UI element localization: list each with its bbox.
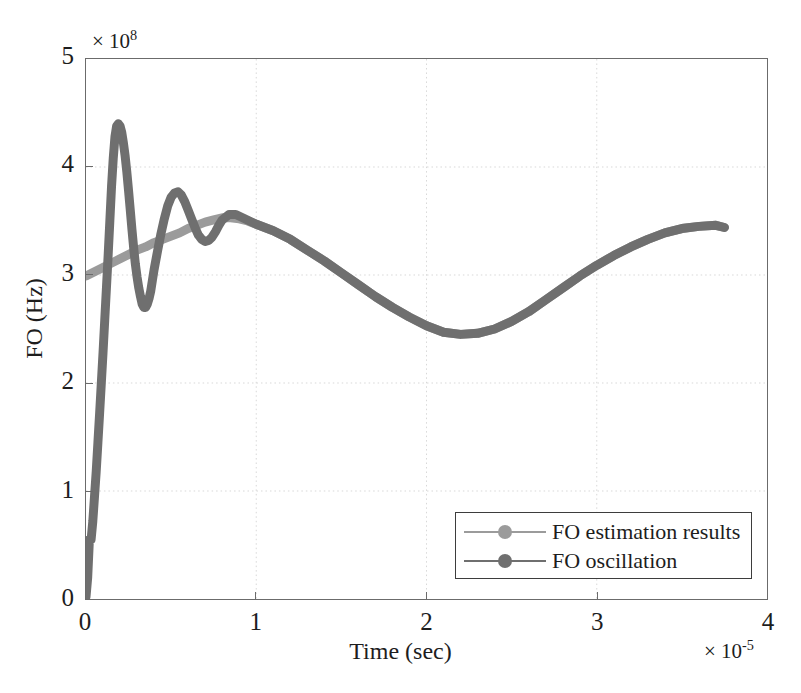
x-axis-exponent: × 10-5	[704, 639, 754, 664]
y-axis-exponent-power: 8	[130, 27, 137, 43]
x-tick-label: 2	[402, 608, 452, 636]
chart-figure: × 108 01234501234 FO (Hz) Time (sec) × 1…	[0, 0, 801, 693]
x-tick-label: 1	[231, 608, 281, 636]
x-tick-label: 4	[743, 608, 793, 636]
y-tick-label: 1	[42, 476, 74, 504]
y-tick-label: 4	[42, 150, 74, 178]
legend-swatch-estimation	[464, 522, 546, 542]
legend-label-oscillation: FO oscillation	[546, 548, 677, 574]
legend-label-estimation: FO estimation results	[546, 519, 740, 545]
y-tick-label: 5	[42, 42, 74, 70]
y-axis-exponent-base: × 10	[92, 29, 130, 53]
legend-swatch-oscillation	[464, 551, 546, 571]
legend: FO estimation results FO oscillation	[455, 512, 752, 579]
legend-marker-oscillation	[498, 554, 512, 568]
legend-item-oscillation: FO oscillation	[456, 546, 751, 575]
y-tick-label: 0	[42, 584, 74, 612]
x-axis-exponent-power: -5	[742, 637, 754, 653]
y-axis-exponent: × 108	[92, 29, 137, 54]
legend-item-estimation: FO estimation results	[456, 517, 751, 546]
y-axis-title: FO (Hz)	[21, 249, 48, 389]
legend-marker-estimation	[498, 525, 512, 539]
x-tick-label: 3	[572, 608, 622, 636]
x-axis-exponent-base: × 10	[704, 639, 742, 663]
x-tick-label: 0	[60, 608, 110, 636]
x-axis-title: Time (sec)	[0, 638, 801, 665]
